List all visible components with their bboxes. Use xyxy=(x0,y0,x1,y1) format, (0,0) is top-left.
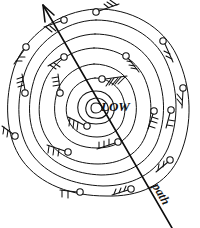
low-pressure-diagram-canvas: LOW path xyxy=(0,0,200,228)
station-marker-5 xyxy=(123,53,139,72)
isobar-ring-8 xyxy=(8,9,189,196)
station-marker-7 xyxy=(177,85,186,108)
station-marker-6 xyxy=(48,54,67,69)
isobar-ring-6 xyxy=(30,34,164,175)
station-marker-1 xyxy=(93,0,119,15)
station-marker-11 xyxy=(166,107,175,128)
weather-map-figure: LOW path xyxy=(0,0,200,228)
station-marker-12 xyxy=(148,108,158,129)
station-marker-16 xyxy=(97,139,121,149)
station-marker-9 xyxy=(17,74,28,96)
station-marker-10 xyxy=(52,74,63,96)
station-marker-2 xyxy=(44,17,67,32)
station-marker-4 xyxy=(14,44,29,64)
station-marker-18 xyxy=(60,189,83,198)
station-marker-15 xyxy=(47,145,71,156)
station-marker-8 xyxy=(99,76,127,86)
low-pressure-center-label: LOW xyxy=(100,99,131,114)
isobar-group xyxy=(8,9,189,196)
station-marker-17 xyxy=(156,157,173,172)
station-marker-3 xyxy=(160,38,173,62)
station-marker-13 xyxy=(68,117,90,130)
